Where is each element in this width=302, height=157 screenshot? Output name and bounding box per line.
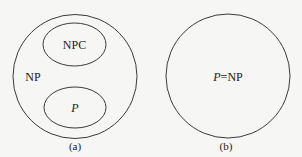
venn-diagram: NPC NP P (a) P=NP (b) xyxy=(0,0,302,157)
panel-a: NPC NP P (a) xyxy=(13,15,137,154)
p-label: P xyxy=(70,101,79,115)
npc-label: NPC xyxy=(63,38,86,52)
np-label: NP xyxy=(25,70,41,84)
panel-b: P=NP (b) xyxy=(166,14,290,153)
diagram-canvas: NPC NP P (a) P=NP (b) xyxy=(0,0,302,157)
p-equals-np-label: P=NP xyxy=(212,70,243,84)
p-equals-np-label-eq: =NP xyxy=(221,70,243,84)
caption-b: (b) xyxy=(220,140,233,153)
caption-a: (a) xyxy=(69,140,82,153)
